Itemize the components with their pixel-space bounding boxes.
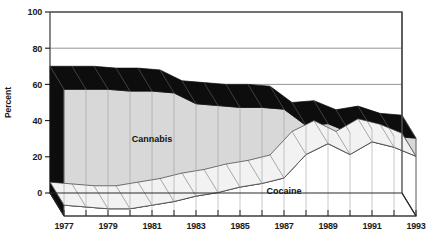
y-tick-label: 20: [32, 152, 42, 162]
y-axis-label: Percent: [3, 87, 13, 118]
chart-root: 020406080100 197719791981198319851987198…: [0, 0, 428, 249]
x-tick-label: 1979: [98, 221, 117, 231]
y-tick-label: 100: [28, 7, 43, 17]
y-tick-label: 80: [32, 44, 42, 54]
y-axis-label-group: Percent: [3, 87, 13, 118]
x-tick-label: 1993: [406, 221, 425, 231]
series-label: Cannabis: [132, 134, 173, 144]
x-tick-label: 1985: [230, 221, 249, 231]
series-label: Cocaine: [266, 186, 301, 196]
y-tick-label: 0: [37, 188, 42, 198]
x-tick-label: 1981: [142, 221, 161, 231]
x-tick-label: 1989: [318, 221, 337, 231]
y-tick-label: 60: [32, 80, 42, 90]
area-chart: 020406080100 197719791981198319851987198…: [0, 0, 428, 249]
x-tick-label: 1987: [274, 221, 293, 231]
x-tick-label: 1991: [362, 221, 381, 231]
y-tick-label: 40: [32, 116, 42, 126]
x-tick-label: 1983: [186, 221, 205, 231]
x-tick-label: 1977: [54, 221, 73, 231]
